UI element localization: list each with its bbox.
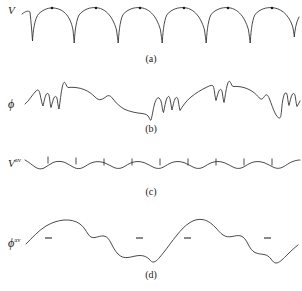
panel-d-curve (26, 219, 298, 263)
panel-b-plot (0, 74, 302, 124)
panel-a: V (a) (0, 0, 302, 72)
panel-a-dot-markers (51, 7, 274, 10)
panel-a-dot (227, 7, 230, 10)
panel-a-plot (0, 0, 302, 52)
panel-c-caption: (c) (0, 186, 302, 197)
panel-c-plot (0, 145, 302, 187)
panel-d: ϕav (d) (0, 212, 302, 291)
panel-b-curve (25, 81, 300, 120)
panel-c-tick-markers (48, 157, 272, 166)
panel-a-curve (22, 8, 299, 43)
panel-a-dot (51, 7, 54, 10)
panel-b-caption: (b) (0, 123, 302, 134)
panel-c: Vav (c) (0, 145, 302, 207)
panel-d-caption: (d) (0, 269, 302, 280)
panel-a-dot (95, 7, 98, 10)
panel-a-dot (271, 7, 274, 10)
panel-d-plot (0, 212, 302, 270)
panel-a-dot (139, 7, 142, 10)
panel-c-curve (25, 160, 300, 169)
panel-b: ϕ (b) (0, 74, 302, 140)
figure-panel-group: V (a) ϕ (b) Vav (0, 0, 302, 291)
panel-a-dot (183, 7, 186, 10)
panel-a-caption: (a) (0, 53, 302, 64)
